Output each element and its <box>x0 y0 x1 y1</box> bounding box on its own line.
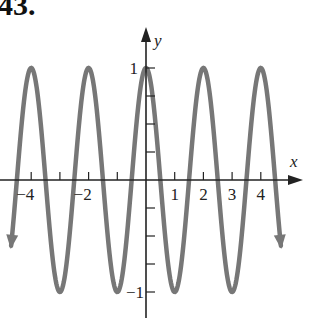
cosine-graph: −4−212341−1xy <box>0 0 318 330</box>
x-tick-label: −4 <box>16 185 35 204</box>
x-tick-label: −2 <box>74 185 92 204</box>
y-tick-label: −1 <box>126 283 144 302</box>
x-axis-arrow-icon <box>288 175 303 185</box>
y-axis-arrow-icon <box>141 27 151 42</box>
y-tick-label: 1 <box>130 59 139 78</box>
x-tick-label: 2 <box>199 185 208 204</box>
x-tick-label: 3 <box>228 185 237 204</box>
x-tick-label: 1 <box>170 185 179 204</box>
y-axis-label: y <box>152 31 162 50</box>
x-axis-label: x <box>289 152 298 171</box>
x-tick-label: 4 <box>257 185 266 204</box>
